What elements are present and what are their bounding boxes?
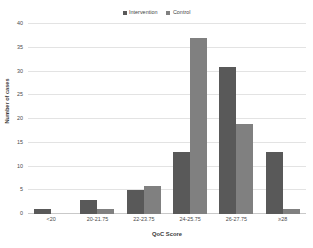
bar-group <box>213 24 259 214</box>
y-axis-tick-label: 15 <box>17 140 23 145</box>
bar-control[interactable] <box>236 124 253 214</box>
legend-entry-control[interactable]: Control <box>166 10 190 15</box>
y-axis-title: Number of cases <box>4 55 10 147</box>
x-axis-tick-label: 24-25.75 <box>167 217 213 222</box>
bar-group <box>74 24 120 214</box>
bar-group <box>167 24 213 214</box>
bar-intervention[interactable] <box>219 67 236 214</box>
legend-label: Intervention <box>129 10 157 15</box>
x-axis-tick-label: <20 <box>28 217 74 222</box>
bar-intervention[interactable] <box>127 190 144 214</box>
y-axis-tick-label: 0 <box>20 211 23 216</box>
bar-control[interactable] <box>283 209 300 214</box>
bar-control[interactable] <box>97 209 114 214</box>
y-axis-tick-label: 10 <box>17 164 23 169</box>
chart-legend: InterventionControl <box>0 7 313 19</box>
bar-intervention[interactable] <box>173 152 190 214</box>
y-axis-tick-label: 5 <box>20 188 23 193</box>
y-axis-tick-label: 25 <box>17 93 23 98</box>
bars-layer <box>28 24 306 214</box>
bar-intervention[interactable] <box>34 209 51 214</box>
bar-control[interactable] <box>144 186 161 215</box>
bar-control[interactable] <box>190 38 207 214</box>
x-axis-tick-label: 20-21.75 <box>74 217 120 222</box>
legend-label: Control <box>173 10 191 15</box>
bar-group <box>121 24 167 214</box>
x-axis-title: QoC Score <box>28 231 306 237</box>
x-axis-tick-label: ≥28 <box>260 217 306 222</box>
bar-intervention[interactable] <box>80 200 97 214</box>
x-axis-tick-label: 26-27.75 <box>213 217 259 222</box>
legend-swatch-icon <box>123 11 127 15</box>
x-axis-tick-labels: <2020-21.7522-23.7524-25.7526-27.75≥28 <box>28 217 306 222</box>
y-axis-tick-label: 40 <box>17 21 23 26</box>
y-axis-tick-label: 35 <box>17 45 23 50</box>
legend-entry-intervention[interactable]: Intervention <box>123 10 158 15</box>
bar-chart: InterventionControl 0510152025303540 Num… <box>0 0 313 248</box>
bar-intervention[interactable] <box>266 152 283 214</box>
legend-swatch-icon <box>166 11 170 15</box>
bar-group <box>28 24 74 214</box>
y-axis-tick-label: 30 <box>17 69 23 74</box>
y-axis-tick-label: 20 <box>17 116 23 121</box>
bar-group <box>260 24 306 214</box>
x-axis-tick-label: 22-23.75 <box>121 217 167 222</box>
